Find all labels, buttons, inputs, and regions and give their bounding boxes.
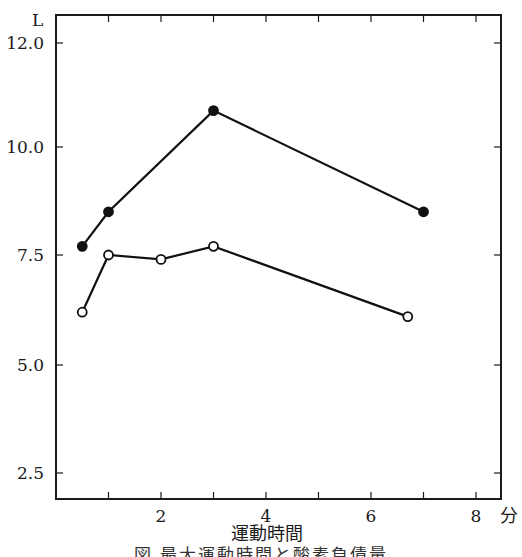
x-axis-title: 運動時間 bbox=[231, 523, 303, 544]
data-series bbox=[78, 106, 428, 321]
filled-circles-marker bbox=[209, 106, 218, 115]
open-circles-marker bbox=[209, 242, 218, 251]
open-circles-marker bbox=[104, 251, 113, 260]
y-tick-label: 5.0 bbox=[17, 355, 44, 375]
y-tick-label: 2.5 bbox=[17, 463, 44, 483]
y-axis-tick-labels: 12.010.07.55.02.5 bbox=[6, 33, 44, 483]
filled-circles-marker bbox=[419, 207, 428, 216]
open-circles-marker bbox=[157, 255, 166, 264]
y-axis-unit: L bbox=[32, 10, 43, 30]
open-circles-line bbox=[82, 246, 408, 316]
open-circles-marker bbox=[403, 312, 412, 321]
y-tick-label: 12.0 bbox=[6, 33, 44, 53]
x-axis-tick-labels: 2468 bbox=[156, 506, 482, 526]
figure-caption: 図 最大運動時間と酸素負債量 bbox=[0, 544, 522, 557]
open-circles-marker bbox=[78, 308, 87, 317]
x-tick-label: 6 bbox=[366, 506, 377, 526]
filled-circles-marker bbox=[104, 207, 113, 216]
y-tick-label: 10.0 bbox=[6, 137, 44, 157]
line-chart: 12.010.07.55.02.5 2468 L 分 運動時間 bbox=[0, 0, 522, 557]
filled-circles-marker bbox=[78, 242, 87, 251]
x-axis-unit: 分 bbox=[500, 505, 518, 526]
filled-circles-line bbox=[82, 111, 423, 247]
x-tick-label: 8 bbox=[471, 506, 482, 526]
x-tick-label: 2 bbox=[156, 506, 167, 526]
y-tick-label: 7.5 bbox=[17, 245, 44, 265]
